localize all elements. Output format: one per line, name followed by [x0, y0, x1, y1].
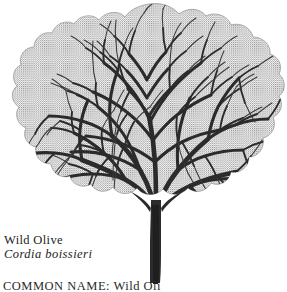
common-name-detail-line: COMMON NAME: Wild Oli	[3, 280, 287, 292]
figure-caption: Wild Olive Cordia boissieri	[4, 234, 184, 261]
detail-line-value: Wild Oli	[113, 280, 161, 292]
caption-scientific-name: Cordia boissieri	[4, 248, 184, 261]
caption-common-name: Wild Olive	[4, 234, 184, 247]
detail-line-label: COMMON NAME:	[3, 280, 113, 292]
field-guide-page: Wild Olive Cordia boissieri COMMON NAME:…	[0, 0, 287, 292]
